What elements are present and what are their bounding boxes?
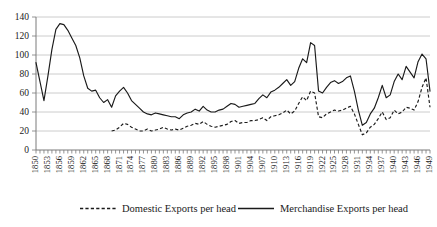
x-axis-label-1916: 1916 [293, 155, 303, 173]
x-axis-label-1895: 1895 [209, 156, 219, 173]
x-axis-label-1919: 1919 [305, 156, 315, 173]
x-axis-label-1946: 1946 [412, 155, 422, 173]
x-axis-label-1904: 1904 [245, 155, 255, 173]
x-axis-label-1934: 1934 [364, 155, 374, 173]
x-axis-label-1943: 1943 [400, 156, 410, 173]
x-axis-label-1928: 1928 [340, 156, 350, 173]
chart-canvas: 020406080100120140 185018531856185918621… [0, 0, 437, 227]
x-axis-label-1892: 1892 [197, 156, 207, 173]
x-axis-label-1880: 1880 [149, 156, 159, 173]
y-axis-label-100: 100 [15, 50, 30, 60]
x-axis-tick-marks [36, 150, 430, 154]
x-axis-label-1913: 1913 [281, 156, 291, 173]
data-series [36, 24, 430, 135]
x-axis-label-1850: 1850 [30, 156, 40, 173]
x-axis-label-1859: 1859 [66, 156, 76, 173]
x-axis-label-1901: 1901 [233, 156, 243, 173]
y-axis-label-60: 60 [20, 88, 30, 98]
x-axis-label-1949: 1949 [424, 156, 434, 173]
x-axis-label-1883: 1883 [161, 156, 171, 173]
y-axis-tick-labels: 020406080100120140 [15, 12, 36, 155]
x-axis-tick-labels: 1850185318561859186218651868187118741877… [30, 155, 434, 173]
x-axis-label-1877: 1877 [137, 155, 147, 173]
y-axis-label-40: 40 [20, 107, 30, 117]
y-axis-label-0: 0 [24, 145, 29, 155]
x-axis-label-1940: 1940 [388, 156, 398, 173]
x-axis-label-1865: 1865 [90, 156, 100, 173]
chart-legend: Domestic Exports per headMerchandise Exp… [80, 203, 409, 214]
x-axis-label-1868: 1868 [102, 156, 112, 173]
x-axis-label-1886: 1886 [173, 155, 183, 173]
x-axis-label-1898: 1898 [221, 156, 231, 173]
x-axis-label-1856: 1856 [54, 155, 64, 173]
x-axis-label-1871: 1871 [114, 156, 124, 173]
axis-lines [36, 17, 430, 150]
x-axis-label-1937: 1937 [376, 155, 386, 173]
x-axis-label-1922: 1922 [317, 156, 327, 173]
x-axis-label-1925: 1925 [328, 156, 338, 173]
y-axis-label-80: 80 [20, 69, 30, 79]
y-axis-label-120: 120 [15, 31, 30, 41]
legend-label-1: Domestic Exports per head [122, 203, 237, 214]
y-axis-label-20: 20 [20, 126, 30, 136]
x-axis-label-1874: 1874 [125, 155, 135, 173]
x-axis-label-1907: 1907 [257, 155, 267, 173]
x-axis-label-1889: 1889 [185, 156, 195, 173]
x-axis-label-1910: 1910 [269, 156, 279, 173]
series-line-merchandise-exports [36, 24, 430, 126]
x-axis-label-1862: 1862 [78, 156, 88, 173]
legend-label-2: Merchandise Exports per head [280, 203, 409, 214]
x-axis-label-1931: 1931 [352, 156, 362, 173]
exports-per-head-line-chart: 020406080100120140 185018531856185918621… [0, 0, 437, 227]
x-axis-label-1853: 1853 [42, 156, 52, 173]
y-axis-label-140: 140 [15, 12, 30, 22]
